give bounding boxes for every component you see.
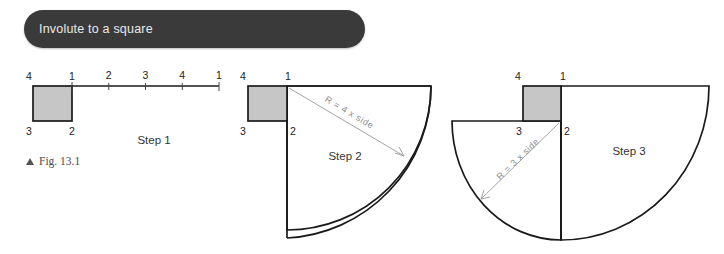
step-3-label-bottom-right: 2 — [564, 125, 570, 137]
step-2-caption: Step 2 — [328, 150, 361, 162]
step-2-radius-label: R = 4 x side — [323, 94, 375, 131]
step-2-label-top-right: 1 — [285, 70, 291, 82]
involute-construction-diagram: 4 1 3 2 2 3 4 1 Step 1 R = — [0, 0, 724, 254]
step-3-caption: Step 3 — [612, 145, 645, 157]
step-1-label-bottom-right: 2 — [69, 125, 75, 137]
step-3-left-sector — [452, 121, 561, 240]
figure-page: Involute to a square Fig. 13.1 4 1 3 2 — [0, 0, 724, 254]
step-3-label-top-left: 4 — [515, 70, 521, 82]
step-3-right-sector — [561, 86, 709, 240]
step-1-label-bottom-left: 3 — [26, 125, 32, 137]
step-2-square — [248, 86, 287, 121]
step-3-label-bottom-left: 3 — [516, 125, 522, 137]
step-3-radius-label: R = 3 x side — [495, 136, 541, 182]
step-1-label-top-left: 4 — [26, 70, 32, 82]
step-1-rect-label-3: 3 — [143, 69, 149, 81]
step-1-rect-label-end: 1 — [216, 69, 222, 81]
step-2-label-bottom-right: 2 — [290, 125, 296, 137]
step-1-label-top-right: 1 — [69, 70, 75, 82]
step-1-square — [33, 86, 72, 121]
step-2-group: R = 4 x side 4 1 3 2 Step 2 — [240, 70, 431, 238]
step-1-group: 4 1 3 2 2 3 4 1 Step 1 — [26, 69, 222, 146]
step-2-radius-line — [289, 88, 404, 156]
step-2-label-bottom-left: 3 — [240, 125, 246, 137]
step-3-label-top-right: 1 — [560, 70, 566, 82]
step-3-group: R = 3 x side 4 1 3 2 Step 3 — [452, 70, 709, 240]
step-2-label-top-left: 4 — [240, 70, 246, 82]
step-1-caption: Step 1 — [137, 134, 170, 146]
step-1-rect-label-4: 4 — [179, 69, 185, 81]
step-1-rect-label-2: 2 — [106, 69, 112, 81]
step-3-square — [523, 86, 561, 121]
